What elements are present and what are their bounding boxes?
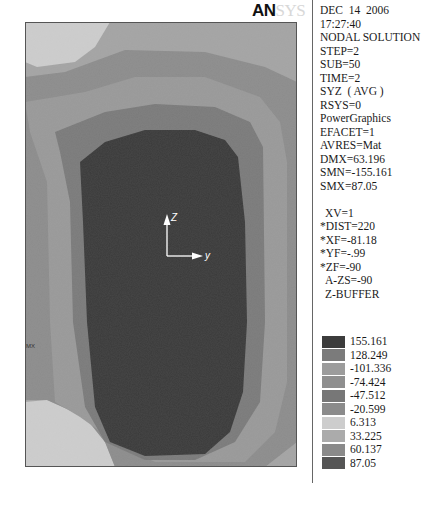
legend-label: -47.512 xyxy=(350,389,385,403)
dist-text: *DIST=220 xyxy=(320,220,420,234)
step-text: STEP=2 xyxy=(320,45,420,59)
legend-swatch xyxy=(322,349,345,361)
legend-row: 6.313 xyxy=(322,416,391,430)
smn-text: SMN=-155.161 xyxy=(320,166,420,180)
legend-label: 128.249 xyxy=(350,349,387,363)
legend-swatch xyxy=(322,390,345,402)
legend-row: 60.137 xyxy=(322,443,391,457)
y-axis-label: y xyxy=(205,250,210,261)
contour-legend: 155.161 128.249 -101.336 -74.424 -47.512… xyxy=(322,335,391,470)
legend-swatch xyxy=(322,403,345,415)
legend-label: -74.424 xyxy=(350,376,385,390)
legend-row: -74.424 xyxy=(322,376,391,390)
avres-text: AVRES=Mat xyxy=(320,139,420,153)
legend-swatch xyxy=(322,430,345,442)
zf-text: *ZF=-90 xyxy=(320,261,420,275)
z-axis-label: Z xyxy=(171,212,177,223)
time-text: 17:27:40 xyxy=(320,18,420,32)
legend-row: -20.599 xyxy=(322,403,391,417)
panel-separator xyxy=(312,0,313,483)
sub-text: SUB=50 xyxy=(320,58,420,72)
legend-row: -101.336 xyxy=(322,362,391,376)
legend-swatch xyxy=(322,363,345,375)
contour-svg xyxy=(25,22,297,467)
solution-type: NODAL SOLUTION xyxy=(320,31,420,45)
azs-text: A-ZS=-90 xyxy=(320,274,420,288)
legend-swatch xyxy=(322,376,345,388)
legend-label: 87.05 xyxy=(350,457,376,471)
smx-text: SMX=87.05 xyxy=(320,180,420,194)
legend-label: 33.225 xyxy=(350,430,382,444)
date-text: DEC 14 2006 xyxy=(320,4,420,18)
legend-label: 6.313 xyxy=(350,416,376,430)
legend-label: 60.137 xyxy=(350,443,382,457)
efacet-text: EFACET=1 xyxy=(320,126,420,140)
rsys-text: RSYS=0 xyxy=(320,99,420,113)
legend-swatch xyxy=(322,457,345,469)
contour-plot: Z y xyxy=(25,22,297,467)
component-text: SYZ ( AVG ) xyxy=(320,85,420,99)
spacer xyxy=(320,193,420,207)
logo-bold: AN xyxy=(252,1,276,20)
legend-row: 128.249 xyxy=(322,349,391,363)
legend-swatch xyxy=(322,417,345,429)
legend-swatch xyxy=(322,336,345,348)
info-panel: DEC 14 2006 17:27:40 NODAL SOLUTION STEP… xyxy=(320,4,420,301)
legend-label: -101.336 xyxy=(350,362,391,376)
legend-row: 155.161 xyxy=(322,335,391,349)
time-value: TIME=2 xyxy=(320,72,420,86)
legend-row: 33.225 xyxy=(322,430,391,444)
max-marker: MX xyxy=(26,343,35,349)
ansys-logo: ANSYS xyxy=(252,2,305,20)
legend-row: -47.512 xyxy=(322,389,391,403)
xf-text: *XF=-81.18 xyxy=(320,234,420,248)
legend-label: -20.599 xyxy=(350,403,385,417)
logo-light: SYS xyxy=(276,1,306,20)
graphics-text: PowerGraphics xyxy=(320,112,420,126)
legend-label: 155.161 xyxy=(350,335,387,349)
legend-swatch xyxy=(322,444,345,456)
yf-text: *YF=-.99 xyxy=(320,247,420,261)
dmx-text: DMX=63.196 xyxy=(320,153,420,167)
zbuffer-text: Z-BUFFER xyxy=(320,288,420,302)
xv-text: XV=1 xyxy=(320,207,420,221)
legend-row: 87.05 xyxy=(322,457,391,471)
